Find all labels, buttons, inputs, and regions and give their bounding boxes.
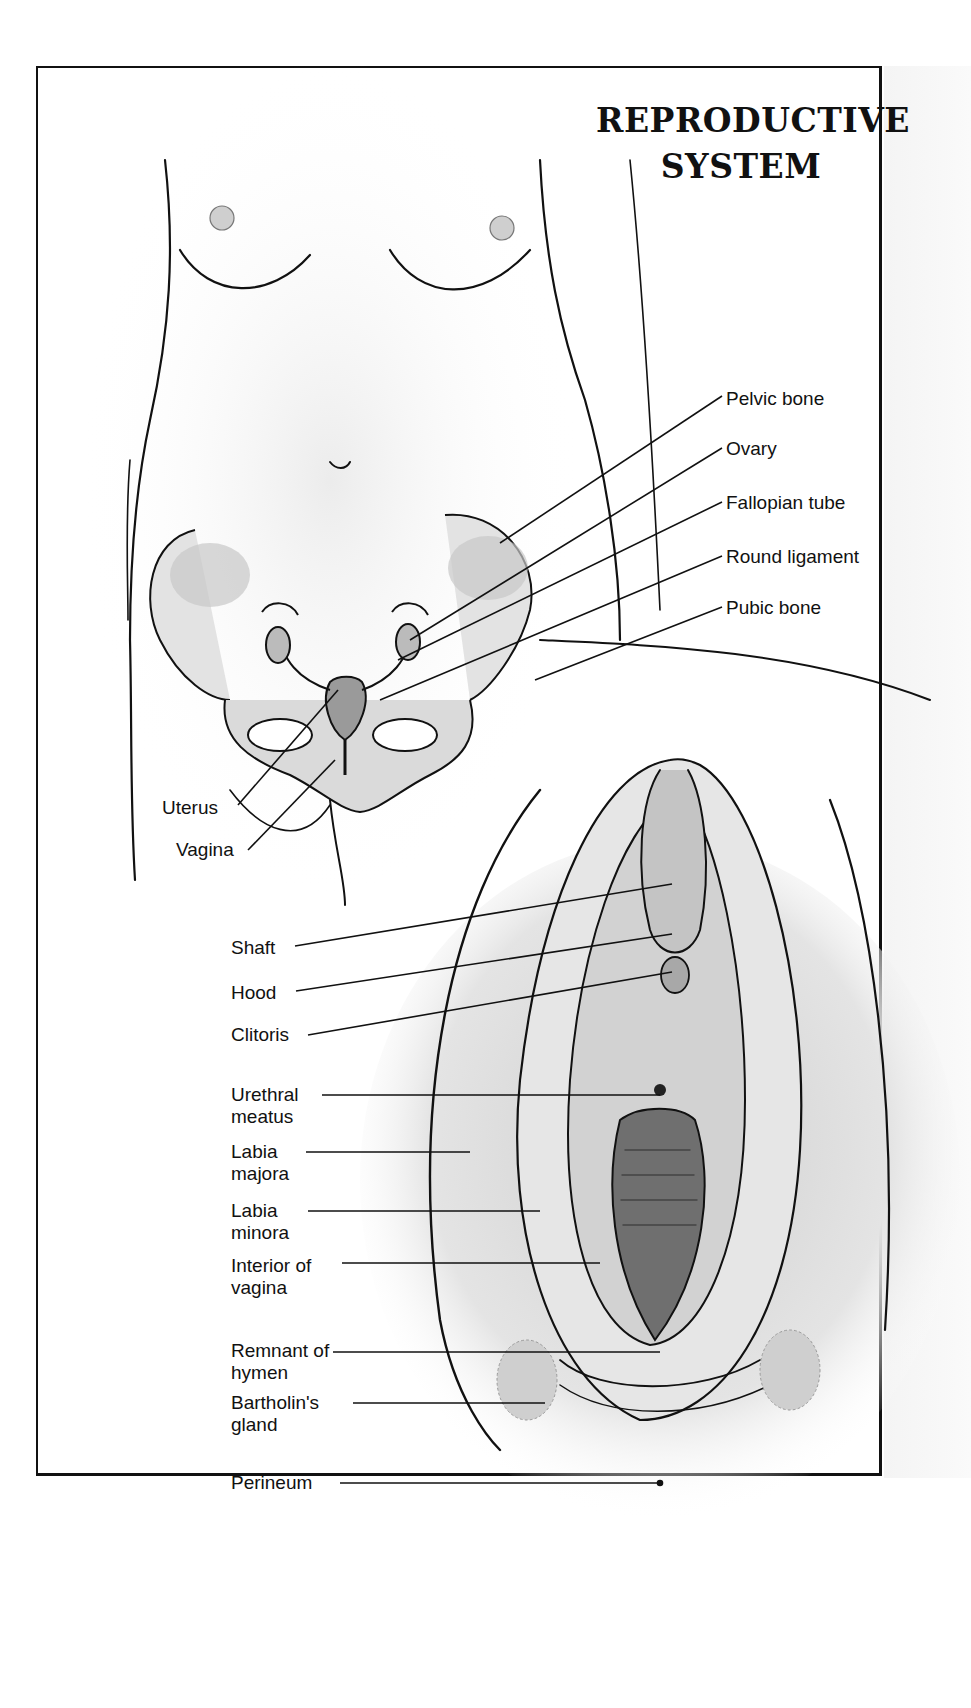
label-perineum: Perineum xyxy=(231,1472,312,1494)
label-uterus: Uterus xyxy=(162,797,218,819)
label-pelvic-bone: Pelvic bone xyxy=(726,388,824,410)
label-round-ligament: Round ligament xyxy=(726,546,859,568)
label-urethral-meatus: Urethral meatus xyxy=(231,1084,341,1128)
label-labia-minora: Labia minora xyxy=(231,1200,311,1244)
label-remnant-of-hymen: Remnant of hymen xyxy=(231,1340,341,1384)
label-clitoris: Clitoris xyxy=(231,1024,289,1046)
label-hood: Hood xyxy=(231,982,276,1004)
label-labia-majora: Labia majora xyxy=(231,1141,311,1185)
label-vagina: Vagina xyxy=(176,839,234,861)
label-fallopian-tube: Fallopian tube xyxy=(726,492,845,514)
anatomy-illustration xyxy=(0,0,971,1708)
label-ovary: Ovary xyxy=(726,438,777,460)
label-bartholins-gland: Bartholin's gland xyxy=(231,1392,351,1436)
label-pubic-bone: Pubic bone xyxy=(726,597,821,619)
label-shaft: Shaft xyxy=(231,937,275,959)
label-interior-of-vagina: Interior of vagina xyxy=(231,1255,341,1299)
